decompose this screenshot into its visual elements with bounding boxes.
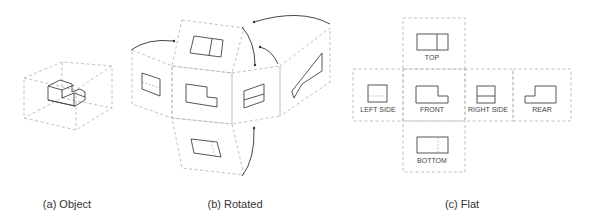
caption-object: (a) Object	[43, 198, 91, 210]
rear-view: REAR	[525, 86, 556, 113]
right-side-view: RIGHT SIDE	[468, 86, 508, 113]
label-rear: REAR	[532, 106, 551, 113]
left-side-view: LEFT SIDE	[360, 85, 396, 113]
label-front: FRONT	[420, 106, 445, 113]
rotated-panels	[132, 20, 330, 175]
rotation-arrows	[131, 15, 330, 176]
label-bottom: BOTTOM	[417, 157, 447, 164]
object-glass-box	[24, 62, 112, 130]
bottom-view: BOTTOM	[417, 137, 448, 164]
front-view: FRONT	[416, 86, 448, 113]
projection-diagram: TOP LEFT SIDE FRONT RIGHT SIDE REAR BOTT…	[0, 0, 589, 220]
label-left-side: LEFT SIDE	[360, 106, 396, 113]
label-top: TOP	[425, 54, 440, 61]
caption-rotated: (b) Rotated	[207, 198, 262, 210]
top-view: TOP	[417, 34, 448, 61]
caption-flat: (c) Flat	[445, 198, 479, 210]
flat-grid	[353, 18, 571, 172]
label-right-side: RIGHT SIDE	[468, 106, 508, 113]
flat-views: TOP LEFT SIDE FRONT RIGHT SIDE REAR BOTT…	[360, 34, 556, 164]
